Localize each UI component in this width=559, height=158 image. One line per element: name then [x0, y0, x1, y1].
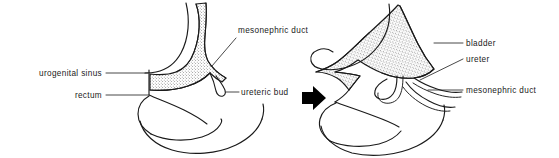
label-ureteric-bud: ureteric bud — [241, 88, 289, 97]
rectum-lobe-curve-right — [319, 103, 336, 141]
rectum-inner-lobe — [151, 119, 222, 140]
label-mesonephric-duct-left: mesonephric duct — [238, 26, 309, 35]
panel-early-stage: urogenital sinus rectum mesonephric duct… — [39, 3, 309, 153]
label-rectum: rectum — [75, 91, 102, 100]
rectum-upper-lobe — [149, 95, 207, 124]
panel-later-stage: bladder ureter mesonephric duct — [311, 4, 537, 155]
leader-mesonephric-duct-left — [212, 38, 236, 66]
rectum-lobe-curve — [138, 96, 151, 134]
label-urogenital-sinus: urogenital sinus — [39, 69, 102, 78]
label-mesonephric-duct-right: mesonephric duct — [466, 86, 537, 95]
hindgut-lower-body — [140, 119, 262, 153]
diagram-canvas: urogenital sinus rectum mesonephric duct… — [0, 0, 559, 158]
hindgut-tail-right — [443, 105, 445, 120]
mesonephric-duct-tube-lower — [406, 82, 455, 107]
rectum-junction — [335, 90, 349, 102]
body-wall-curve-left — [145, 3, 188, 73]
right-arrow-icon — [302, 86, 326, 110]
hindgut-tail — [262, 104, 264, 119]
rectum-upper-lobe-right — [335, 102, 399, 127]
rectum-inner-lobe-right — [330, 131, 401, 146]
label-ureter: ureter — [466, 55, 490, 64]
anatomical-figure: urogenital sinus rectum mesonephric duct… — [0, 0, 559, 158]
label-bladder: bladder — [466, 39, 496, 48]
hindgut-lower-body-right — [321, 120, 443, 155]
